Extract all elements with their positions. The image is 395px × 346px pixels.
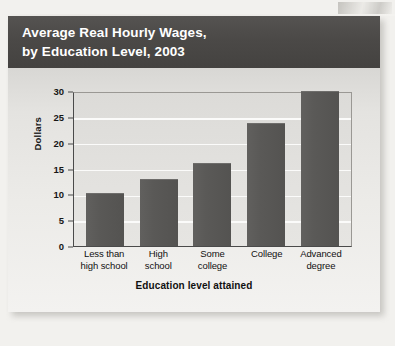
bar: [140, 179, 178, 246]
y-axis-title: Dollars: [32, 137, 43, 151]
x-category-label-line: High: [131, 248, 185, 260]
y-tick-label: 15: [53, 165, 64, 175]
x-axis-category-labels: Less thanhigh schoolHighschoolSomecolleg…: [73, 248, 352, 271]
x-category-label-line: College: [240, 248, 294, 260]
y-axis-ticks: 051015202530: [46, 92, 68, 247]
y-tick-label: 5: [59, 216, 64, 226]
figure-title-bar: Average Real Hourly Wages, by Education …: [8, 16, 380, 68]
y-tick-label: 25: [53, 113, 64, 123]
x-category-label: Highschool: [131, 248, 185, 271]
x-category-label-line: degree: [294, 260, 348, 272]
x-category-label: Somecollege: [185, 248, 239, 271]
bar: [301, 91, 339, 246]
x-category-label: College: [240, 248, 294, 271]
figure-title-line-2: by Education Level, 2003: [22, 42, 380, 61]
bar: [193, 163, 231, 246]
x-category-label-line: Advanced: [294, 248, 348, 260]
x-category-label: Less thanhigh school: [77, 248, 131, 271]
x-category-label-line: high school: [77, 260, 131, 272]
plot-area: [73, 92, 352, 247]
y-tick-label: 20: [53, 139, 64, 149]
plot-wrapper: Dollars 051015202530: [32, 92, 352, 247]
y-tick-label: 10: [53, 190, 64, 200]
x-category-label: Advanceddegree: [294, 248, 348, 271]
y-tick-label: 30: [53, 87, 64, 97]
chart-body: Dollars 051015202530 Less thanhigh schoo…: [8, 68, 380, 312]
y-tick-label: 0: [59, 242, 64, 252]
x-category-label-line: school: [131, 260, 185, 272]
x-axis-title: Education level attained: [8, 280, 380, 291]
bar: [86, 193, 124, 246]
bars-layer: [74, 93, 351, 246]
x-category-label-line: college: [185, 260, 239, 272]
x-category-label-line: Less than: [77, 248, 131, 260]
figure-title-line-1: Average Real Hourly Wages,: [22, 23, 380, 42]
bar: [247, 123, 285, 246]
x-category-label-line: Some: [185, 248, 239, 260]
scan-artifact: [338, 2, 392, 14]
figure-card: Average Real Hourly Wages, by Education …: [8, 16, 380, 312]
